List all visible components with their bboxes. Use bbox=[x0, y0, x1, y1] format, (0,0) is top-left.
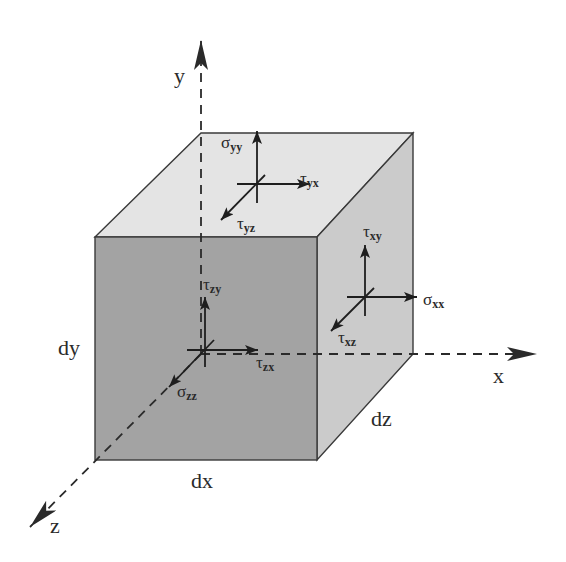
dimension-dy-label: dy bbox=[58, 335, 80, 360]
z-axis-label: z bbox=[50, 513, 60, 538]
stress-cube-diagram: y x z dx dy dz σyy τyx τyz bbox=[0, 0, 566, 562]
diagram-canvas: y x z dx dy dz σyy τyx τyz bbox=[0, 0, 566, 562]
x-axis-label: x bbox=[493, 363, 504, 388]
dimension-dz-label: dz bbox=[371, 406, 392, 431]
sigma-xx-label: σxx bbox=[423, 290, 444, 311]
dimension-dx-label: dx bbox=[191, 468, 213, 493]
y-axis-label: y bbox=[174, 63, 185, 88]
